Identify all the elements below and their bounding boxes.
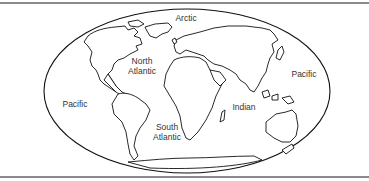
south-america: [112, 93, 150, 160]
japan: [276, 46, 284, 60]
ocean-label-arctic: Arctic: [175, 13, 196, 23]
arctic-islands: [128, 20, 144, 27]
ocean-label-south-atlantic: South Atlantic: [153, 122, 181, 142]
ocean-label-north-atlantic: North Atlantic: [128, 56, 156, 76]
indonesia-islands: [262, 90, 294, 104]
australia: [266, 110, 298, 142]
greenland: [145, 23, 172, 38]
ocean-label-indian: Indian: [232, 102, 255, 112]
madagascar: [220, 110, 225, 122]
new-zealand-tasmania: [282, 144, 294, 154]
world-map: [0, 0, 369, 181]
ocean-label-pacific-east: Pacific: [291, 69, 316, 79]
ocean-label-pacific-west: Pacific: [62, 99, 87, 109]
